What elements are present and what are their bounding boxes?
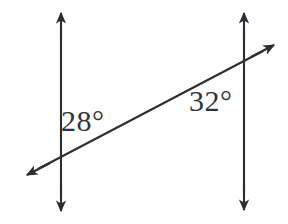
geometry-diagram-svg <box>0 0 288 224</box>
transversal-line-upper-right-arrow <box>251 45 274 57</box>
transversal-line-lower-left-arrow <box>27 163 50 175</box>
angle-label-32: 32° <box>189 86 233 116</box>
geometry-figure: 28° 32° <box>0 0 288 224</box>
angle-label-28: 28° <box>61 106 105 136</box>
